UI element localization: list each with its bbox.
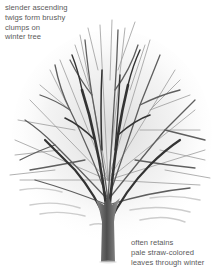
annotation-line: clumps on	[5, 23, 68, 33]
annotation-line: often retains	[131, 238, 204, 248]
annotation-line: slender ascending	[5, 3, 68, 13]
annotation-line: twigs form brushy	[5, 13, 68, 23]
annotation-leaves: often retains pale straw-colored leaves …	[131, 238, 204, 267]
annotation-line: leaves through winter	[131, 258, 204, 268]
annotation-line: winter tree	[5, 32, 68, 42]
annotation-twigs: slender ascending twigs form brushy clum…	[5, 3, 68, 42]
annotation-line: pale straw-colored	[131, 248, 204, 258]
